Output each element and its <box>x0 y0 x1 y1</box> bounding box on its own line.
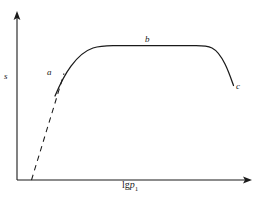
plot-canvas <box>0 0 265 206</box>
figure-container: s lgp1 a b c <box>0 0 265 206</box>
curve-label-b: b <box>145 35 150 44</box>
curve-label-c: c <box>236 82 240 91</box>
dashed-extrapolation-line <box>32 74 65 181</box>
response-curve-path <box>55 46 234 96</box>
x-axis-label-prefix: lg <box>122 179 130 190</box>
x-axis-label-subscript: 1 <box>135 185 139 193</box>
y-axis-label: s <box>4 72 8 81</box>
x-axis-label: lgp1 <box>122 180 138 193</box>
curve-label-a: a <box>47 68 52 77</box>
